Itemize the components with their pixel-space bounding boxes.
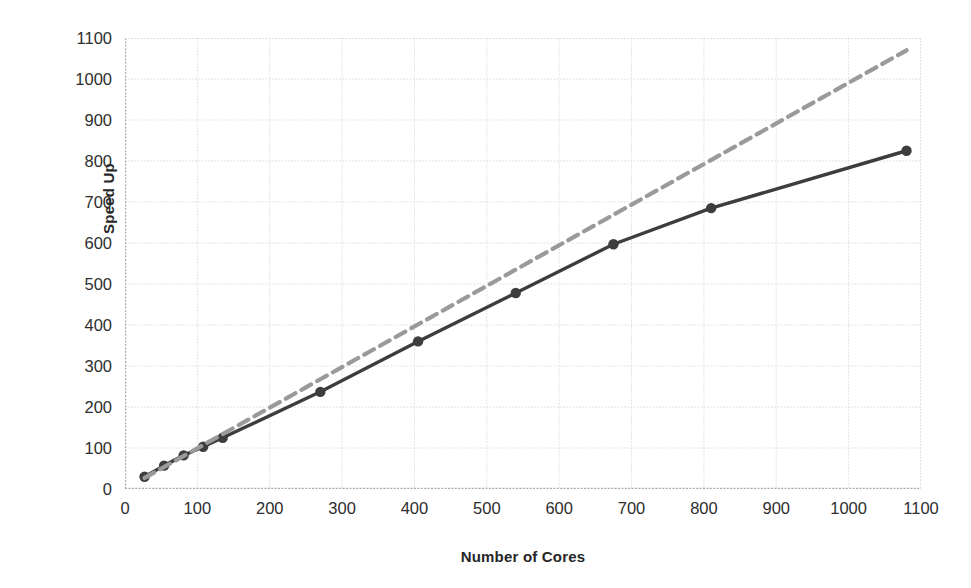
x-axis-tick-label: 300: [328, 500, 356, 517]
x-axis-tick-labels: 010020030040050060070080090010001100: [0, 0, 971, 588]
x-axis-tick-label: 1000: [830, 500, 867, 517]
x-axis-tick-label: 500: [473, 500, 501, 517]
x-axis-tick-label: 900: [763, 500, 791, 517]
speedup-chart: Speed Up 1100100090080070060050040030020…: [0, 0, 971, 588]
x-axis-tick-label: 100: [184, 500, 212, 517]
x-axis-tick-label: 600: [545, 500, 573, 517]
x-axis-tick-label: 1100: [903, 500, 938, 517]
x-axis-tick-label: 200: [256, 500, 284, 517]
x-axis-tick-label: 400: [401, 500, 429, 517]
x-axis-tick-label: 0: [120, 500, 129, 517]
x-axis-tick-label: 700: [618, 500, 646, 517]
x-axis-tick-label: 800: [690, 500, 718, 517]
x-axis-title: Number of Cores: [125, 548, 921, 565]
